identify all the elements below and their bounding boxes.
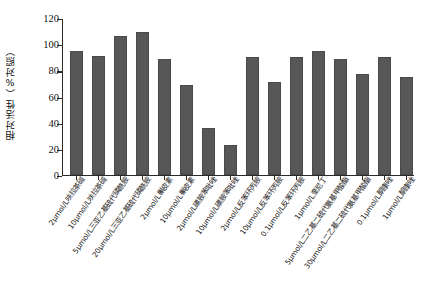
- bar: [70, 51, 83, 175]
- y-tick-label: 60: [49, 91, 60, 104]
- y-tick-label: 80: [49, 64, 60, 77]
- y-tick-label: 120: [43, 12, 59, 25]
- y-tick-label: 20: [49, 143, 60, 156]
- y-tick-label: 100: [43, 38, 59, 51]
- y-axis-line: [62, 19, 63, 176]
- y-tick-label: 40: [49, 117, 60, 130]
- bar-chart: 相对活性（%对照） 020406080100120 2µmol/L呋拉茶碱10µ…: [0, 0, 432, 291]
- x-axis-labels: 2µmol/L呋拉茶碱10µmol/L呋拉茶碱5µmol/L三亚乙基硫代磷酰胺2…: [0, 176, 432, 291]
- y-axis-title: 相对活性（%对照）: [2, 18, 18, 168]
